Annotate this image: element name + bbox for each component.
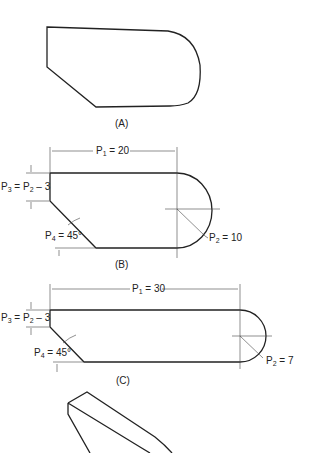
c-p1-label: P1 = 30: [132, 284, 165, 295]
b-p4-sym: P: [45, 230, 52, 241]
drawing-canvas: [0, 0, 316, 453]
c-p1-val: = 30: [143, 283, 166, 294]
c-p3-a: P: [1, 312, 8, 323]
b-p1-val: = 20: [107, 145, 130, 156]
b-p2-label: P2 = 10: [209, 233, 242, 244]
b-p3-label: P3 = P2 – 3: [1, 182, 50, 193]
b-p1-sym: P: [96, 145, 103, 156]
c-p4-val: = 45°: [45, 347, 72, 358]
c-p2-label: P2 = 7: [266, 356, 294, 367]
b-p3-a: P: [1, 181, 8, 192]
b-p1-label: P1 = 20: [96, 146, 129, 157]
b-p4-label: P4 = 45°: [45, 231, 82, 242]
shape-a-outline: [47, 27, 200, 107]
b-p2-val: = 10: [220, 232, 243, 243]
b-p2-sym: P: [209, 232, 216, 243]
c-p3-e: – 3: [34, 312, 51, 323]
caption-a: (A): [115, 118, 128, 129]
c-p1-sym: P: [132, 283, 139, 294]
c-p4-sym: P: [34, 347, 41, 358]
caption-c: (C): [116, 375, 130, 386]
caption-b: (B): [115, 259, 128, 270]
b-p4-val: = 45°: [56, 230, 83, 241]
b-p3-e: – 3: [34, 181, 51, 192]
c-p4-label: P4 = 45°: [34, 348, 71, 359]
c-p3-label: P3 = P2 – 3: [1, 313, 50, 324]
b-p3-c: = P: [12, 181, 30, 192]
c-p2-sym: P: [266, 355, 273, 366]
c-p2-val: = 7: [277, 355, 294, 366]
c-p3-c: = P: [12, 312, 30, 323]
shape-d-outline: [68, 392, 172, 453]
